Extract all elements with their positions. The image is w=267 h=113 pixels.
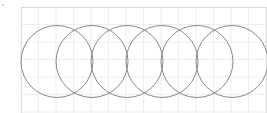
circle-1 [21, 26, 93, 98]
circle-3 [91, 26, 163, 98]
circle-5 [161, 26, 233, 98]
diagram-canvas [0, 0, 267, 113]
corner-marker-dot [2, 4, 4, 6]
circle-2 [56, 26, 128, 98]
circle-4 [126, 26, 198, 98]
